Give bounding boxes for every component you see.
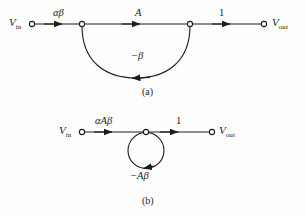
label-vout-b: Vout <box>219 125 235 139</box>
node-vin-b <box>79 129 84 134</box>
label-vout-b-text: V <box>219 124 226 136</box>
edge-self-loop-b <box>128 133 164 169</box>
label-vin-a: Vin <box>9 17 21 31</box>
label-vout-a: Vout <box>272 17 288 31</box>
label-gain-one-b: 1 <box>176 116 181 127</box>
label-vin-b: Vin <box>59 125 71 139</box>
label-vin-a-text: V <box>9 16 16 28</box>
label-vin-a-sub: in <box>16 23 22 31</box>
caption-panel-a: (a) <box>142 87 153 97</box>
label-vin-b-sub: in <box>66 131 72 139</box>
label-gain-neg-A-beta: −Aβ <box>130 171 149 182</box>
panel-a-graph <box>29 21 266 78</box>
node-summing-b <box>143 129 148 134</box>
label-vout-a-text: V <box>272 16 279 28</box>
node-vin-a <box>29 21 34 26</box>
label-gain-neg-beta: −β <box>131 51 143 62</box>
node-summing-a <box>79 21 84 26</box>
label-gain-A: A <box>135 8 141 19</box>
node-vout-a <box>261 21 266 26</box>
figure-canvas: Vin αβ A 1 −β Vout (a) Vin αAβ 1 Vout −A… <box>0 0 306 216</box>
label-gain-one-a: 1 <box>219 8 224 19</box>
caption-panel-b: (b) <box>142 196 154 206</box>
node-amplifier-output-a <box>187 21 192 26</box>
label-gain-alpha-A-beta: αAβ <box>95 116 112 127</box>
label-gain-alpha-beta: αβ <box>53 8 64 19</box>
label-vout-a-sub: out <box>279 23 288 31</box>
node-vout-b <box>209 129 214 134</box>
label-vout-b-sub: out <box>226 131 235 139</box>
signal-flow-graph-svg <box>0 0 306 216</box>
label-vin-b-text: V <box>59 124 66 136</box>
panel-b-graph <box>79 129 214 168</box>
